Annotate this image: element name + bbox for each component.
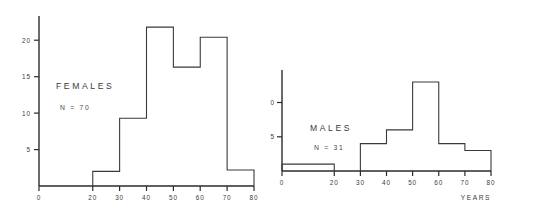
x-tick-labels-males: 0 20 30 40 50 60 70 80	[280, 179, 496, 186]
y-ticks-females	[34, 40, 39, 149]
x-tick-label-70: 70	[223, 194, 232, 201]
x-axis-title-males: YEARS	[461, 194, 491, 201]
x-tick-label-80: 80	[487, 179, 496, 186]
chart-males: 10 5 0 20 30 40 50 60 70	[270, 0, 541, 216]
x-tick-label-50: 50	[408, 179, 417, 186]
axes-males	[282, 70, 491, 171]
y-tick-label-10: 10	[270, 99, 275, 106]
sample-size-males: N = 31	[314, 144, 344, 151]
x-tick-label-60: 60	[434, 179, 443, 186]
chart-males-svg: 10 5 0 20 30 40 50 60 70	[270, 0, 541, 216]
sample-size-females: N = 70	[60, 104, 90, 111]
x-tick-label-60: 60	[196, 194, 205, 201]
x-tick-label-20: 20	[330, 179, 339, 186]
y-tick-label-5: 5	[27, 146, 31, 153]
y-tick-labels-females: 20 15 10 5	[22, 37, 31, 153]
x-tick-label-0: 0	[37, 194, 41, 201]
histogram-outline-females	[93, 27, 254, 186]
x-tick-label-70: 70	[460, 179, 469, 186]
x-ticks-females	[39, 186, 254, 191]
y-tick-label-20: 20	[22, 37, 31, 44]
x-tick-label-0: 0	[280, 179, 284, 186]
y-ticks-males	[277, 103, 282, 137]
chart-title-females: FEMALES	[56, 81, 114, 91]
chart-title-males: MALES	[310, 123, 352, 133]
x-tick-label-40: 40	[382, 179, 391, 186]
x-tick-labels-females: 0 20 30 40 50 60 70 80	[37, 194, 259, 201]
x-tick-label-30: 30	[356, 179, 365, 186]
chart-females-svg: 20 15 10 5 0 20 30 40 50	[0, 0, 270, 216]
x-tick-label-30: 30	[115, 194, 124, 201]
x-tick-label-40: 40	[142, 194, 151, 201]
chart-females: 20 15 10 5 0 20 30 40 50	[0, 0, 270, 216]
x-tick-label-80: 80	[250, 194, 259, 201]
y-tick-labels-males: 10 5	[270, 99, 275, 140]
x-tick-label-20: 20	[88, 194, 97, 201]
histogram-figure: 20 15 10 5 0 20 30 40 50	[0, 0, 541, 216]
y-tick-label-15: 15	[22, 73, 31, 80]
y-tick-label-10: 10	[22, 110, 31, 117]
x-tick-label-50: 50	[169, 194, 178, 201]
x-ticks-males	[282, 171, 491, 176]
y-tick-label-5: 5	[271, 133, 275, 140]
